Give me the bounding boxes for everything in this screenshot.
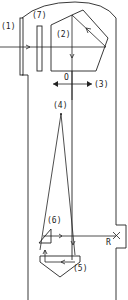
- label-6: (6): [47, 216, 61, 225]
- label-7: (7): [32, 11, 46, 20]
- label-2: (2): [56, 30, 70, 39]
- label-5: (5): [73, 264, 87, 273]
- label-o: O: [64, 73, 69, 82]
- label-3: (3): [94, 80, 108, 89]
- arrow-right-head: [87, 81, 92, 87]
- label-4: (4): [53, 101, 67, 110]
- label-r: R: [106, 238, 111, 247]
- label-1: (1): [1, 22, 15, 31]
- converging-ray-right: [61, 114, 75, 255]
- housing-left-wall: [22, 75, 28, 300]
- optical-diagram: (1) (7) (2) O (3) (4) (6) R (5): [0, 0, 128, 300]
- arrow-left-head: [53, 81, 58, 87]
- entrance-plate: [20, 18, 23, 75]
- receiver-cross-icon: [113, 232, 120, 239]
- filter-plate: [37, 26, 42, 71]
